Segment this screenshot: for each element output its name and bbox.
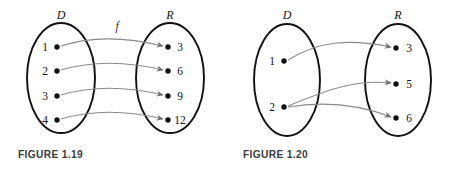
figure-1-19-domain-element-4: 4 [42, 114, 48, 126]
figure-1-19-caption: FIGURE 1.19 [18, 149, 83, 160]
figure-1-19-range-element-3: 3 [177, 41, 183, 53]
figure-1-19-domain-element-3: 3 [42, 90, 48, 102]
figure-1-19-domain-ellipse [27, 23, 95, 133]
figure-1-19-range-element-6: 6 [177, 65, 183, 77]
figure-1-19-range-element-9: 9 [177, 90, 183, 102]
figure-1-19-range-label: R [165, 8, 174, 22]
figure-sheet: D1234R36912fFIGURE 1.19D12R356FIGURE 1.2… [0, 0, 461, 170]
figure-1-20-range-dot-5 [393, 81, 398, 86]
mapping-diagram-canvas: D1234R36912fFIGURE 1.19D12R356FIGURE 1.2… [0, 0, 461, 170]
figure-1-19: D1234R36912fFIGURE 1.19 [18, 8, 204, 160]
figure-1-20-range-element-5: 5 [406, 78, 412, 90]
figure-1-20-arrow-2-to-5 [288, 82, 391, 106]
figure-1-20-range-dot-3 [393, 45, 398, 50]
figure-1-19-domain-dot-2 [54, 68, 59, 73]
figure-1-19-range-dot-6 [165, 68, 170, 73]
figure-1-19-domain-element-2: 2 [42, 65, 48, 77]
figure-1-19-arrow-1-to-3 [61, 39, 163, 46]
figure-1-20-range-element-6: 6 [406, 112, 412, 124]
figure-1-19-domain-dot-4 [54, 117, 59, 122]
figure-1-20-arrow-2-to-6 [288, 104, 391, 117]
figure-1-19-domain-dot-3 [54, 93, 59, 98]
figure-1-19-range-dot-9 [165, 93, 170, 98]
figure-1-19-domain-dot-1 [54, 44, 59, 49]
figure-1-19-domain-element-1: 1 [42, 41, 48, 53]
figure-1-20-arrow-1-to-3 [288, 42, 391, 60]
figure-1-20-domain-element-2: 2 [269, 101, 275, 113]
figure-1-20-domain-dot-1 [281, 58, 286, 63]
figure-1-20-range-set: R356 [365, 8, 431, 136]
figure-1-20: D12R356FIGURE 1.20 [243, 8, 431, 160]
figure-1-20-caption: FIGURE 1.20 [243, 149, 308, 160]
figure-1-20-domain-dot-2 [281, 104, 286, 109]
figure-1-19-range-element-12: 12 [174, 114, 186, 126]
figure-1-20-domain-element-1: 1 [269, 55, 275, 67]
figure-1-19-range-dot-12 [165, 117, 170, 122]
figure-1-20-range-dot-6 [393, 115, 398, 120]
figure-1-19-range-set: R36912 [136, 8, 204, 133]
figure-1-19-function-label: f [115, 20, 120, 33]
figure-1-19-arrow-2-to-6 [61, 63, 163, 70]
figure-1-19-range-dot-3 [165, 44, 170, 49]
figure-1-20-range-element-3: 3 [406, 42, 412, 54]
figure-1-20-domain-set: D12 [254, 8, 320, 136]
figure-1-20-domain-ellipse [254, 24, 320, 136]
figure-1-19-range-ellipse [136, 23, 204, 133]
figure-1-19-arrow-3-to-9 [61, 88, 163, 95]
figure-1-20-range-label: R [393, 8, 402, 22]
figure-1-19-domain-label: D [56, 8, 66, 22]
figure-1-20-domain-label: D [282, 8, 292, 22]
